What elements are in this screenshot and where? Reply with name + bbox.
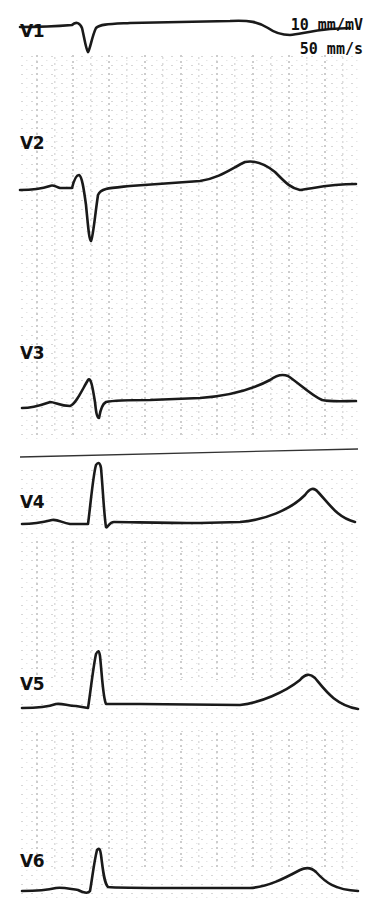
lead-label-v2: V2 [20,133,44,153]
separator-line [20,449,358,457]
calibration-speed: 50 mm/s [300,40,363,58]
lead-label-v6: V6 [20,851,44,871]
calibration-gain: 10 mm/mV [291,16,363,34]
lead-label-v3: V3 [20,343,44,363]
lead-label-v4: V4 [20,492,44,512]
lead-label-v5: V5 [20,674,44,694]
ecg-strip [0,0,369,908]
lead-label-v1: V1 [20,21,44,41]
